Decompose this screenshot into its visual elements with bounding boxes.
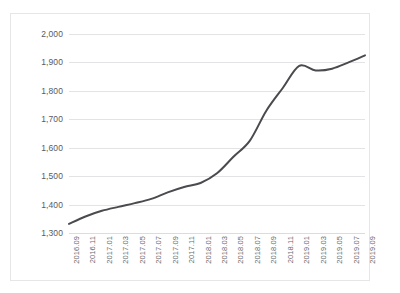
x-axis-tick-label: 2018.05 xyxy=(236,236,245,264)
x-axis-tick-label: 2017.01 xyxy=(105,236,114,264)
x-axis-labels: 2016.092016.112017.012017.032017.052017.… xyxy=(69,236,365,280)
x-axis-tick-label: 2018.03 xyxy=(220,236,229,264)
x-axis-tick-label: 2016.09 xyxy=(72,236,81,264)
x-axis-tick-label: 2016.11 xyxy=(88,236,97,263)
x-axis-line xyxy=(69,233,365,234)
y-axis-tick-label: 1,900 xyxy=(41,57,63,67)
clipped-header-strip: ——··—··——· · · xyxy=(0,0,400,9)
x-axis-tick: 2019.09 xyxy=(368,236,396,245)
x-axis-tick-label: 2018.01 xyxy=(204,236,213,264)
y-axis-tick-label: 1,700 xyxy=(41,114,63,124)
x-axis-tick-label: 2017.07 xyxy=(154,236,163,264)
line-series-svg xyxy=(69,34,365,233)
line-series-path xyxy=(69,55,365,224)
clipped-header-fragment: ·· xyxy=(30,6,35,9)
clipped-header-fragment: —— xyxy=(4,6,18,9)
x-axis-tick-label: 2019.01 xyxy=(302,236,311,264)
x-axis-tick-label: 2019.05 xyxy=(335,236,344,264)
x-axis-tick-label: 2017.09 xyxy=(171,236,180,264)
clipped-header-fragment: — xyxy=(47,6,54,9)
x-axis-tick-label: 2017.11 xyxy=(187,236,196,263)
y-axis-tick-label: 1,800 xyxy=(41,86,63,96)
x-axis-tick-label: 2018.07 xyxy=(253,236,262,264)
x-axis-tick-label: 2019.03 xyxy=(319,236,328,264)
x-axis-tick-label: 2017.05 xyxy=(138,236,147,264)
y-axis-tick-label: 1,400 xyxy=(41,200,63,210)
x-axis-tick-label: 2019.07 xyxy=(352,236,361,264)
clipped-header-fragment: ·· xyxy=(66,6,71,9)
clipped-header-fragment: —— xyxy=(82,6,96,9)
y-axis-tick-label: 1,300 xyxy=(41,228,63,238)
x-axis-tick-label: 2018.11 xyxy=(286,236,295,263)
plot-area: 2,0001,9001,8001,7001,6001,5001,4001,300 xyxy=(69,34,365,233)
y-axis-tick-label: 1,600 xyxy=(41,143,63,153)
clipped-header-fragment: · · · xyxy=(108,6,119,9)
y-axis-tick-label: 1,500 xyxy=(41,171,63,181)
x-axis-tick-label: 2019.09 xyxy=(368,236,377,264)
x-axis-tick-label: 2018.09 xyxy=(269,236,278,264)
x-axis-tick-label: 2017.03 xyxy=(121,236,130,264)
y-axis-tick-label: 2,000 xyxy=(41,29,63,39)
chart-card: 2,0001,9001,8001,7001,6001,5001,4001,300… xyxy=(10,13,370,281)
